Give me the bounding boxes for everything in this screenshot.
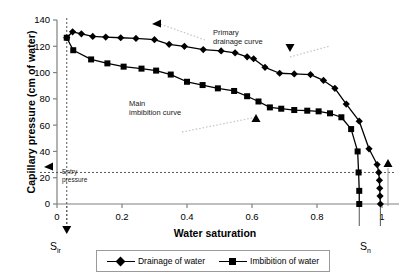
y-tick-label: 40 bbox=[39, 146, 50, 157]
x-tick-label: 0.4 bbox=[180, 211, 193, 222]
y-tick-label: 140 bbox=[34, 14, 50, 25]
y-tick-label: 120 bbox=[34, 41, 50, 52]
data-point-imbibition bbox=[244, 93, 250, 99]
s-ir-subscript: ir bbox=[57, 247, 61, 254]
data-point-drainage bbox=[244, 53, 251, 60]
primary-arrow-tail bbox=[160, 24, 205, 40]
capillary-pressure-chart: Capillary pressure (cm of water) Water s… bbox=[0, 0, 401, 276]
s-n-symbol: S bbox=[360, 240, 367, 252]
legend-label-imbibition: Imbibition of water bbox=[250, 256, 319, 266]
data-point-imbibition bbox=[256, 98, 262, 104]
data-point-imbibition bbox=[348, 126, 354, 132]
annotation-primary-line2: drainage curve bbox=[213, 37, 263, 46]
entry-pressure-line2: pressure bbox=[62, 176, 87, 184]
data-point-drainage bbox=[377, 200, 384, 207]
data-point-imbibition bbox=[231, 88, 237, 94]
data-point-drainage bbox=[78, 30, 85, 37]
data-point-imbibition bbox=[104, 60, 110, 66]
annotation-main-line1: Main bbox=[129, 99, 181, 108]
y-tick-label: 60 bbox=[39, 120, 50, 131]
data-point-drainage bbox=[376, 193, 383, 200]
series-line-drainage bbox=[67, 32, 381, 204]
data-point-imbibition bbox=[304, 108, 310, 114]
y-tick-label: 20 bbox=[39, 172, 50, 183]
data-point-drainage bbox=[200, 46, 207, 53]
legend-item-imbibition: Imbibition of water bbox=[219, 256, 319, 266]
series-line-imbibition bbox=[67, 38, 360, 204]
imbibition-arrow-tail bbox=[182, 118, 252, 132]
data-point-drainage bbox=[102, 33, 109, 40]
x-tick-label: 0.2 bbox=[115, 211, 128, 222]
legend-item-drainage: Drainage of water bbox=[107, 256, 205, 266]
main-imbibition-arrow-icon bbox=[252, 114, 261, 122]
legend-marker-diamond-icon bbox=[107, 257, 135, 266]
data-point-drainage bbox=[181, 43, 188, 50]
annotation-entry-pressure: Entry pressure bbox=[62, 168, 87, 183]
data-point-imbibition bbox=[153, 68, 159, 74]
primary-drainage-arrow-icon bbox=[152, 20, 161, 28]
x-tick-label: 0.6 bbox=[245, 211, 258, 222]
data-point-drainage bbox=[376, 177, 383, 184]
data-point-drainage bbox=[232, 49, 239, 56]
data-point-imbibition bbox=[267, 104, 273, 110]
drainage-direction-arrow-icon bbox=[286, 44, 295, 52]
sn-arrow-icon bbox=[384, 159, 393, 167]
data-point-imbibition bbox=[215, 85, 221, 91]
data-point-drainage bbox=[276, 70, 283, 77]
plot-area: 02040608010012014000.20.40.60.81 bbox=[0, 0, 401, 248]
data-point-drainage bbox=[374, 161, 381, 168]
x-tick-label: 0.8 bbox=[310, 211, 323, 222]
data-point-drainage bbox=[89, 33, 96, 40]
annotation-main-imbibition: Main imbibition curve bbox=[129, 99, 181, 117]
data-point-drainage bbox=[218, 47, 225, 54]
legend-label-drainage: Drainage of water bbox=[138, 256, 205, 266]
data-point-drainage bbox=[375, 169, 382, 176]
s-n-subscript: n bbox=[367, 247, 371, 254]
s-ir-symbol: S bbox=[50, 240, 57, 252]
annotation-primary-drainage: Primary drainage curve bbox=[213, 28, 263, 46]
data-point-drainage bbox=[151, 36, 158, 43]
s-n-label: Sn bbox=[360, 240, 371, 254]
data-point-imbibition bbox=[356, 169, 362, 175]
data-point-drainage bbox=[117, 34, 124, 41]
y-tick-label: 100 bbox=[34, 67, 50, 78]
annotation-main-line2: imbibition curve bbox=[129, 108, 181, 117]
data-point-drainage bbox=[376, 185, 383, 192]
data-point-drainage bbox=[132, 35, 139, 42]
sir-arrow-icon bbox=[62, 226, 71, 234]
entry-pressure-line1: Entry bbox=[62, 168, 87, 176]
s-ir-label: Sir bbox=[50, 240, 61, 254]
drainage-arrow2-tail bbox=[290, 46, 330, 57]
data-point-imbibition bbox=[278, 106, 284, 112]
data-point-imbibition bbox=[168, 72, 174, 78]
data-point-imbibition bbox=[70, 47, 76, 53]
legend-marker-square-icon bbox=[219, 257, 247, 266]
data-point-imbibition bbox=[356, 201, 362, 207]
data-point-imbibition bbox=[139, 66, 145, 72]
data-point-imbibition bbox=[327, 110, 333, 116]
data-point-drainage bbox=[166, 41, 173, 48]
data-point-imbibition bbox=[356, 188, 362, 194]
y-tick-label: 0 bbox=[45, 198, 50, 209]
data-point-drainage bbox=[365, 145, 372, 152]
chart-legend: Drainage of water Imbibition of water bbox=[96, 250, 330, 272]
data-point-imbibition bbox=[316, 108, 322, 114]
data-point-drainage bbox=[307, 71, 314, 78]
data-point-imbibition bbox=[121, 64, 127, 70]
data-point-imbibition bbox=[64, 35, 70, 41]
data-point-imbibition bbox=[88, 56, 94, 62]
annotation-primary-line1: Primary bbox=[213, 28, 263, 37]
data-point-drainage bbox=[291, 70, 298, 77]
x-tick-label: 0 bbox=[54, 211, 59, 222]
y-tick-label: 80 bbox=[39, 93, 50, 104]
data-point-imbibition bbox=[200, 82, 206, 88]
data-point-imbibition bbox=[291, 107, 297, 113]
entry-pressure-arrow-icon bbox=[44, 163, 53, 171]
data-point-imbibition bbox=[338, 114, 344, 120]
data-point-imbibition bbox=[355, 148, 361, 154]
data-point-imbibition bbox=[184, 79, 190, 85]
